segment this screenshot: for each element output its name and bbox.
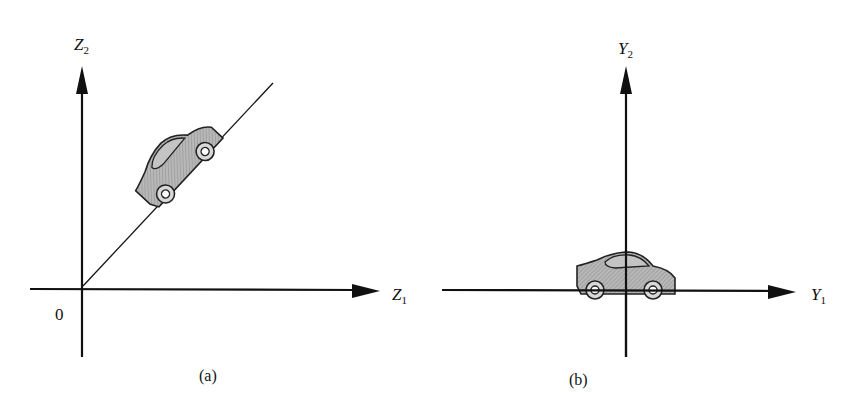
caption-a: (a): [199, 368, 217, 384]
origin-label: 0: [55, 306, 64, 323]
panel-b: [442, 66, 796, 357]
z1-axis-label: Z1: [392, 286, 407, 306]
y1-axis-label: Y1: [811, 286, 826, 306]
car-icon-diagonal: [125, 110, 226, 214]
z2-axis-label: Z2: [74, 36, 89, 56]
z2-arrow-icon: [76, 66, 88, 94]
caption-b: (b): [569, 372, 588, 388]
panel-a: [30, 66, 380, 357]
z1-arrow-icon: [352, 284, 380, 298]
figure-canvas: [0, 0, 847, 413]
y2-axis-label: Y2: [618, 40, 633, 60]
y2-arrow-icon: [620, 66, 632, 94]
y1-axis: [442, 290, 775, 291]
y1-arrow-icon: [768, 285, 796, 299]
z1-axis: [30, 289, 356, 290]
